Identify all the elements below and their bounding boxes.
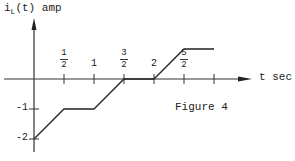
x-tick-label: 1 — [91, 58, 97, 69]
x-tick-label: 2 — [151, 58, 157, 69]
y-axis-arrow-icon — [32, 18, 37, 30]
figure-caption: Figure 4 — [175, 101, 228, 113]
plot-canvas — [0, 0, 295, 161]
y-tick-label: -2 — [16, 132, 28, 143]
x-tick-label: 52 — [179, 49, 189, 70]
y-tick-label: -1 — [16, 102, 28, 113]
x-axis-label: t sec — [259, 71, 292, 83]
x-axis-arrow-icon — [238, 77, 252, 82]
x-tick-label: 32 — [119, 49, 129, 70]
y-axis-label: iL(t) amp — [4, 2, 62, 14]
x-tick-label: 12 — [59, 49, 69, 70]
